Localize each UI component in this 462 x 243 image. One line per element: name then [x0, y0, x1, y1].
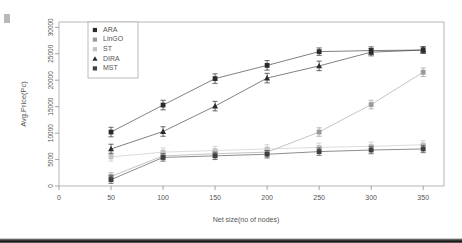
y-axis-title: Avg.Price(Pc): [19, 81, 28, 127]
svg-text:ST: ST: [103, 45, 113, 52]
svg-text:15000: 15000: [47, 97, 54, 115]
data-series-layer: [108, 47, 426, 183]
svg-text:ARA: ARA: [103, 26, 118, 33]
chart-legend: ARALinGOSTDIRAMST: [88, 22, 138, 78]
y-axis-ticks: 050001000015000200002500030000: [47, 18, 59, 188]
svg-text:200: 200: [261, 194, 273, 201]
svg-text:50: 50: [107, 194, 115, 201]
bottom-edge-band: [0, 238, 462, 243]
svg-text:30000: 30000: [47, 18, 54, 36]
chart-figure: 050001000015000200002500030000 050100150…: [0, 0, 462, 243]
svg-text:0: 0: [47, 184, 54, 188]
svg-text:MST: MST: [103, 64, 119, 71]
svg-text:150: 150: [209, 194, 221, 201]
svg-text:0: 0: [57, 194, 61, 201]
svg-text:25000: 25000: [47, 44, 54, 62]
svg-text:DIRA: DIRA: [103, 55, 120, 62]
svg-text:100: 100: [157, 194, 169, 201]
svg-text:300: 300: [365, 194, 377, 201]
svg-text:LinGO: LinGO: [103, 35, 124, 42]
svg-text:250: 250: [313, 194, 325, 201]
svg-text:350: 350: [417, 194, 429, 201]
x-axis-ticks: 050100150200250300350: [57, 186, 429, 201]
svg-text:5000: 5000: [47, 152, 54, 167]
svg-text:10000: 10000: [47, 124, 54, 142]
x-axis-title: Net size(no of nodes): [213, 216, 280, 224]
svg-text:20000: 20000: [47, 71, 54, 89]
